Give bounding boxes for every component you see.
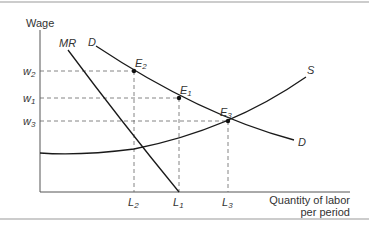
x-axis-label-line2: per period xyxy=(300,206,350,218)
x-axis-label-line1: Quantity of labor xyxy=(269,194,350,206)
l1-label: L1 xyxy=(173,196,184,210)
demand-label-top: D xyxy=(88,36,96,48)
w2-label: w2 xyxy=(23,65,36,79)
l2-label: L2 xyxy=(128,196,139,210)
supply-curve xyxy=(40,77,306,154)
point-e1 xyxy=(177,96,181,100)
w1-label: w1 xyxy=(23,92,35,106)
supply-label: S xyxy=(307,64,315,76)
y-axis-label: Wage xyxy=(26,17,54,29)
demand-label-bottom: D xyxy=(298,136,306,148)
l3-label: L3 xyxy=(222,196,233,210)
mr-label: MR xyxy=(59,37,76,49)
e1-label: E1 xyxy=(180,84,192,98)
e2-label: E2 xyxy=(135,57,147,71)
point-e2 xyxy=(132,69,136,73)
w3-label: w3 xyxy=(23,115,36,129)
labor-market-diagram: Wage MR D D S w2 w1 w3 E2 E1 E3 L2 L1 L3… xyxy=(0,0,369,235)
e3-label: E3 xyxy=(220,106,232,120)
